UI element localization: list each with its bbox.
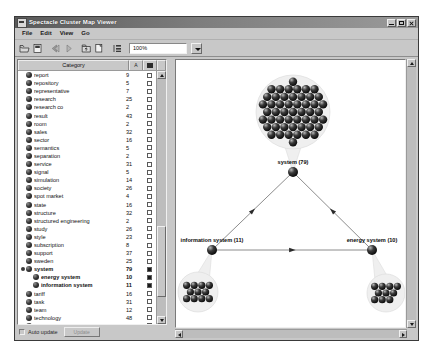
list-item[interactable]: report9 (18, 71, 156, 79)
list-item[interactable]: society26 (18, 184, 156, 192)
forward-arrow-icon[interactable] (63, 43, 74, 54)
list-item[interactable]: room2 (18, 120, 156, 128)
expand-toggle-icon[interactable] (20, 265, 26, 273)
back-arrow-icon[interactable] (50, 43, 61, 54)
list-vertical-scrollbar[interactable] (156, 71, 166, 324)
list-item[interactable]: structure32 (18, 209, 156, 217)
list-item[interactable]: energy system10 (18, 273, 156, 281)
list-item-checkbox[interactable] (142, 307, 156, 312)
list-item-checkbox[interactable] (142, 202, 156, 207)
list-item[interactable]: sales32 (18, 128, 156, 136)
map-scroll-left-button[interactable] (175, 330, 183, 338)
list-item-checkbox[interactable] (142, 81, 156, 86)
list-item-checkbox[interactable] (142, 170, 156, 175)
menu-go[interactable]: Go (77, 28, 93, 39)
chevron-down-icon[interactable] (191, 43, 202, 54)
list-item-checkbox[interactable] (142, 162, 156, 167)
list-item[interactable]: information system11 (18, 281, 156, 289)
list-item[interactable]: subscription8 (18, 241, 156, 249)
list-item-checkbox[interactable] (142, 299, 156, 304)
list-item[interactable]: service31 (18, 160, 156, 168)
column-header-count[interactable]: A (129, 60, 143, 70)
properties-icon[interactable] (112, 43, 123, 54)
scroll-up-button[interactable] (157, 71, 166, 79)
map-horizontal-scrollbar[interactable] (175, 329, 407, 338)
scroll-track[interactable] (157, 79, 166, 316)
list-item[interactable]: state16 (18, 201, 156, 209)
title-bar[interactable]: Spectacle Cluster Map Viewer (15, 17, 418, 28)
cluster-map-canvas[interactable]: system (79)information system (11)energy… (175, 59, 406, 328)
list-item-checkbox[interactable] (142, 137, 156, 142)
list-item[interactable]: sweden25 (18, 257, 156, 265)
open-folder-icon[interactable] (19, 43, 30, 54)
list-item-checkbox[interactable] (142, 267, 156, 272)
list-item-checkbox[interactable] (142, 243, 156, 248)
list-item-checkbox[interactable] (142, 234, 156, 239)
map-scroll-up-button[interactable] (407, 59, 416, 67)
copy-page-icon[interactable] (94, 43, 105, 54)
close-button[interactable] (407, 19, 416, 27)
list-item-checkbox[interactable] (142, 275, 156, 280)
map-scroll-down-button[interactable] (407, 320, 416, 328)
list-item-checkbox[interactable] (142, 97, 156, 102)
list-item[interactable]: task31 (18, 298, 156, 306)
list-item[interactable]: research co2 (18, 103, 156, 111)
list-item[interactable]: research25 (18, 95, 156, 103)
update-button[interactable]: Update (64, 327, 100, 337)
list-item-checkbox[interactable] (142, 194, 156, 199)
list-body[interactable]: report9repository5representative7researc… (18, 71, 156, 324)
auto-update-checkbox[interactable] (19, 329, 25, 335)
minimize-button[interactable] (387, 19, 396, 27)
list-item-checkbox[interactable] (142, 315, 156, 320)
panel-splitter[interactable] (169, 59, 173, 338)
list-item-checkbox[interactable] (142, 210, 156, 215)
list-item[interactable]: sector16 (18, 136, 156, 144)
list-item-checkbox[interactable] (142, 121, 156, 126)
list-item-checkbox[interactable] (142, 259, 156, 264)
list-item-checkbox[interactable] (142, 89, 156, 94)
list-item[interactable]: tariff16 (18, 290, 156, 298)
menu-view[interactable]: View (56, 28, 78, 39)
list-item[interactable]: style23 (18, 233, 156, 241)
map-vertical-scrollbar[interactable] (406, 59, 416, 328)
maximize-button[interactable] (397, 19, 406, 27)
list-item[interactable]: temperature4 (18, 322, 156, 324)
folder-up-icon[interactable] (81, 43, 92, 54)
map-scroll-right-button[interactable] (399, 330, 407, 338)
list-item[interactable]: semantics5 (18, 144, 156, 152)
list-item-checkbox[interactable] (142, 145, 156, 150)
list-item-checkbox[interactable] (142, 186, 156, 191)
list-item-checkbox[interactable] (142, 105, 156, 110)
scroll-thumb[interactable] (157, 226, 166, 297)
list-item-checkbox[interactable] (142, 178, 156, 183)
list-item-checkbox[interactable] (142, 226, 156, 231)
list-item-checkbox[interactable] (142, 218, 156, 223)
list-item[interactable]: simulation14 (18, 176, 156, 184)
list-item[interactable]: study26 (18, 225, 156, 233)
list-item-checkbox[interactable] (142, 291, 156, 296)
column-header-category[interactable]: Category (18, 60, 129, 70)
menu-edit[interactable]: Edit (36, 28, 55, 39)
menu-file[interactable]: File (18, 28, 36, 39)
list-item[interactable]: repository5 (18, 79, 156, 87)
list-item[interactable]: team12 (18, 306, 156, 314)
list-item-checkbox[interactable] (142, 153, 156, 158)
map-scroll-track[interactable] (407, 67, 416, 320)
list-item-checkbox[interactable] (142, 283, 156, 288)
list-item-checkbox[interactable] (142, 73, 156, 78)
new-page-icon[interactable] (32, 43, 43, 54)
scroll-down-button[interactable] (157, 316, 166, 324)
list-item[interactable]: separation2 (18, 152, 156, 160)
list-item[interactable]: representative7 (18, 87, 156, 95)
list-item[interactable]: signal5 (18, 168, 156, 176)
zoom-combo-input[interactable]: 100% (129, 43, 187, 54)
list-item[interactable]: technology48 (18, 314, 156, 322)
list-item[interactable]: spot market4 (18, 192, 156, 200)
list-item[interactable]: system79 (18, 265, 156, 273)
list-item-checkbox[interactable] (142, 113, 156, 118)
list-item-checkbox[interactable] (142, 129, 156, 134)
list-item[interactable]: result43 (18, 111, 156, 119)
list-item-checkbox[interactable] (142, 323, 156, 324)
column-header-check[interactable] (143, 60, 157, 70)
list-item[interactable]: structured engineering2 (18, 217, 156, 225)
